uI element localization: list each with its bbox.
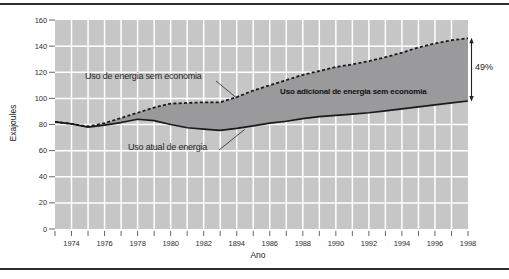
y-tick-label: 60 bbox=[39, 146, 47, 155]
figure: 1974197619781980198218941986198819901992… bbox=[0, 0, 509, 279]
y-tick-label: 0 bbox=[43, 225, 47, 234]
x-tick-label: 1982 bbox=[196, 239, 212, 248]
x-tick-label: 1988 bbox=[295, 239, 311, 248]
x-tick-label: 1986 bbox=[262, 239, 278, 248]
label-uso-adicional-de-energia-sem-economia: Uso adicional de energia sem economia bbox=[280, 87, 427, 96]
label-uso-atual-de-energia: Uso atual de energia bbox=[128, 142, 207, 152]
range-arrow bbox=[469, 38, 473, 102]
y-tick-label: 160 bbox=[35, 16, 47, 25]
x-tick-label: 1980 bbox=[162, 239, 178, 248]
x-tick-label: 1978 bbox=[129, 239, 145, 248]
bottom-rule bbox=[0, 268, 509, 270]
x-axis-title: Ano bbox=[245, 250, 271, 260]
y-tick-label: 20 bbox=[39, 198, 47, 207]
annotation-49-percent: 49% bbox=[475, 62, 493, 72]
y-tick-label: 140 bbox=[35, 42, 47, 51]
y-tick-label: 120 bbox=[35, 68, 47, 77]
x-tick-label: 1992 bbox=[361, 239, 377, 248]
y-tick-label: 80 bbox=[39, 120, 47, 129]
label-uso-de-energia-sem-economia: Uso de energia sem economia bbox=[85, 71, 202, 81]
y-tick-label: 100 bbox=[35, 94, 47, 103]
x-tick-label: 1994 bbox=[394, 239, 410, 248]
x-tick-label: 1990 bbox=[328, 239, 344, 248]
y-tick-label: 40 bbox=[39, 172, 47, 181]
x-tick-label: 1974 bbox=[63, 239, 79, 248]
y-axis-title: Exajoules bbox=[8, 95, 20, 151]
x-tick-label: 1894 bbox=[229, 239, 245, 248]
x-tick-label: 1996 bbox=[427, 239, 443, 248]
x-tick-label: 1998 bbox=[460, 239, 476, 248]
x-tick-label: 1976 bbox=[96, 239, 112, 248]
chart-canvas: 1974197619781980198218941986198819901992… bbox=[0, 0, 509, 279]
energy-chart: 1974197619781980198218941986198819901992… bbox=[0, 0, 509, 279]
